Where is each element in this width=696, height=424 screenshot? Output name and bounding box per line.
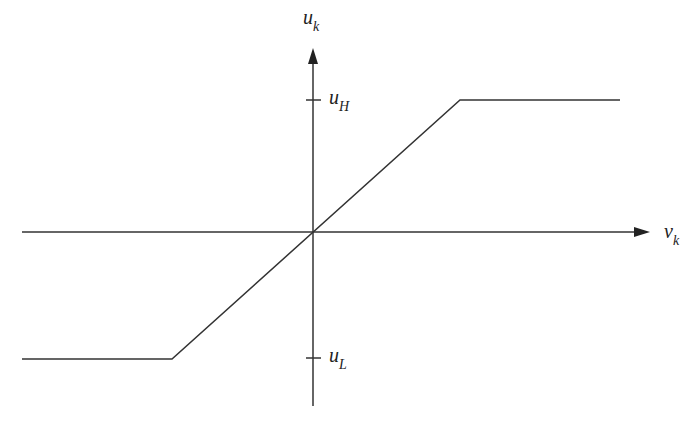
lower-limit-label: uL [329,344,347,372]
y-axis-label: uk [303,6,320,34]
y-axis-arrow-icon [308,48,318,64]
saturation-diagram: uk vk uH uL [0,0,696,424]
upper-limit-label: uH [329,86,350,114]
x-axis-arrow-icon [634,227,650,237]
x-axis-label: vk [664,220,680,248]
saturation-curve [22,100,620,359]
